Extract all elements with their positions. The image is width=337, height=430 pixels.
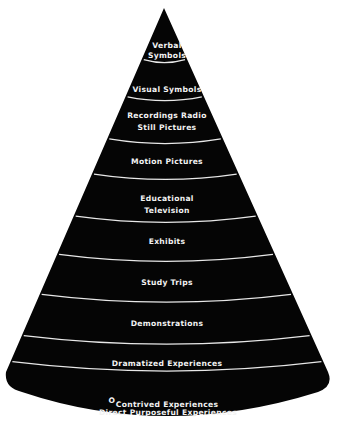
band-verbal-symbols: VerbalSymbols (148, 41, 186, 60)
cone-of-experience-diagram: VerbalSymbolsVisual SymbolsRecordings Ra… (0, 0, 337, 430)
band-label: Television (144, 206, 189, 215)
band-label: O (109, 396, 116, 405)
band-demonstrations: Demonstrations (131, 319, 204, 328)
band-label: Verbal (152, 41, 181, 50)
band-visual-symbols: Visual Symbols (133, 85, 202, 94)
band-exhibits: Exhibits (149, 237, 186, 246)
band-label: Study Trips (141, 278, 193, 287)
band-label: Visual Symbols (133, 85, 202, 94)
band-label: Demonstrations (131, 319, 204, 328)
band-label: Motion Pictures (131, 157, 203, 166)
band-study-trips: Study Trips (141, 278, 193, 287)
band-label: Still Pictures (138, 123, 197, 132)
band-motion-pictures: Motion Pictures (131, 157, 203, 166)
band-label: Direct Purposeful Experiences (99, 408, 237, 417)
band-dramatized-experiences: Dramatized Experiences (112, 359, 223, 368)
band-label: Symbols (148, 51, 186, 60)
band-label: Educational (140, 194, 194, 203)
band-label: Exhibits (149, 237, 186, 246)
band-label: Recordings Radio (127, 111, 207, 120)
band-label: Dramatized Experiences (112, 359, 223, 368)
